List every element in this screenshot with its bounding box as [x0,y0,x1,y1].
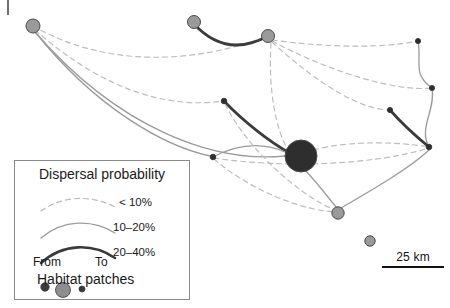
scale-bar-label: 25 km [382,250,444,264]
dispersal-edge [418,41,432,88]
legend-label-lt10: < 10% [119,196,152,208]
dispersal-edge [314,143,429,150]
dispersal-edge [214,159,336,212]
legend-curve-sample [41,223,115,238]
habitat-patch-node [365,236,375,246]
legend-label-10-20: 10–20% [113,221,155,233]
habitat-patch-node [26,19,40,33]
legend-habitat-patches-title: Habitat patches [37,271,134,287]
dispersal-edge [272,41,432,89]
dispersal-edge [272,40,418,46]
dispersal-edge [194,24,268,45]
habitat-patch-node [262,30,275,43]
habitat-patch-node [210,154,216,160]
scale-bar: 25 km [382,250,444,268]
dispersal-edge [341,150,429,208]
legend-label-to: To [95,255,108,269]
dispersal-edge [272,42,390,110]
habitat-patch-node [285,140,317,172]
habitat-network-figure: Dispersal probability < 10% 10–20% 20–40… [0,0,450,308]
habitat-patch-node [415,38,420,43]
dispersal-edge [390,110,429,147]
legend-label-20-40: 20–40% [113,246,155,258]
habitat-patch-node [426,144,432,150]
dispersal-edge [33,26,268,57]
legend-label-from: From [33,255,61,269]
legend-panel: Dispersal probability < 10% 10–20% 20–40… [14,160,190,300]
habitat-patch-node [221,98,227,104]
habitat-patch-node [387,107,392,112]
dispersal-edge [270,43,288,150]
dispersal-edge [213,146,285,157]
dispersal-edge [305,170,337,208]
habitat-patch-node [188,16,201,29]
habitat-patch-node [429,85,434,90]
dispersal-edge [36,33,210,156]
dispersal-edge [35,30,224,103]
scale-bar-line [382,266,444,268]
dispersal-edge [425,88,432,147]
habitat-patch-node [332,207,344,219]
legend-curve-sample [41,198,115,211]
